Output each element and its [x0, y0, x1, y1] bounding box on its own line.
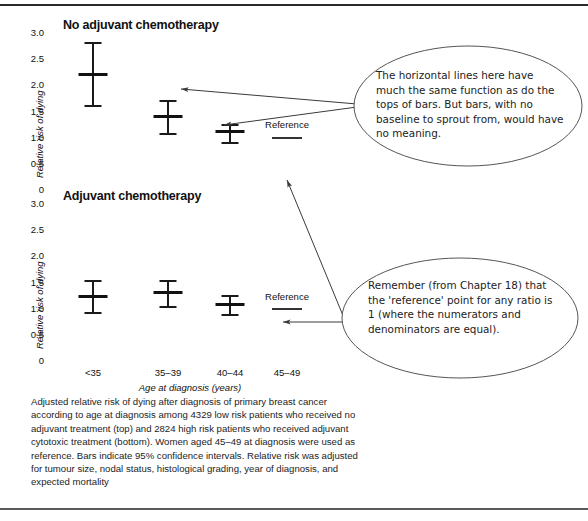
- arrow-bubble1-to-topchart: [181, 89, 357, 104]
- annotation-text: The horizontal lines here have much the …: [376, 68, 564, 141]
- annotation-callout-reference-point: Remember (from Chapter 18) that the 'ref…: [340, 256, 580, 380]
- arrow-bubble2-to-top-reference: [287, 180, 344, 318]
- annotation-text: Remember (from Chapter 18) that the 'ref…: [368, 278, 558, 336]
- arrow-bubble1-to-errorbar: [224, 107, 357, 125]
- figure-caption: Adjusted relative risk of dying after di…: [31, 395, 361, 489]
- annotation-callout-bars-vs-lines: The horizontal lines here have much the …: [352, 44, 584, 168]
- figure-container: No adjuvant chemotherapy Relative risk o…: [0, 0, 588, 521]
